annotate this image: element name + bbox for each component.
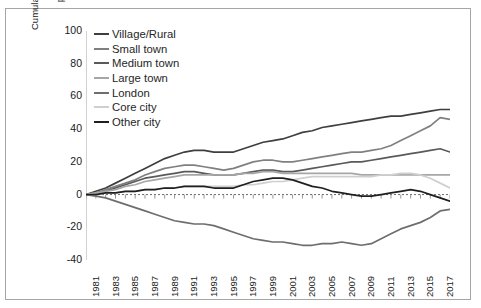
y-axis-tick-label: 100 <box>48 24 82 36</box>
x-axis-tick-label: 1989 <box>169 276 180 297</box>
x-axis-tick-label: 1999 <box>267 276 278 297</box>
x-axis-tick-label: 1997 <box>247 276 258 297</box>
y-axis-tick-label: 80 <box>48 57 82 69</box>
x-axis-tick-label: 1995 <box>228 276 239 297</box>
x-axis-tick-label: 2013 <box>405 276 416 297</box>
legend-label: Small town <box>112 43 167 55</box>
legend-item[interactable]: Small town <box>94 42 179 57</box>
legend-label: Large town <box>112 72 168 84</box>
legend-item[interactable]: Large town <box>94 71 179 86</box>
legend-label: Village/Rural <box>112 28 176 40</box>
chart-frame: Cumulative differential employment growt… <box>5 8 471 300</box>
x-axis-tick-labels: 1981198319851987198919911993199519971999… <box>86 263 450 308</box>
legend-swatch-icon <box>94 48 109 50</box>
y-axis-tick-label: -20 <box>48 220 82 232</box>
x-axis-tick-label: 2003 <box>306 276 317 297</box>
x-axis-tick-label: 1991 <box>188 276 199 297</box>
x-axis-tick-label: 2001 <box>287 276 298 297</box>
y-axis-title-line1: Cumulative differential employment growt… <box>29 0 42 39</box>
legend-item[interactable]: London <box>94 85 179 100</box>
x-axis-tick-label: 1983 <box>110 276 121 297</box>
x-axis-tick-label: 2009 <box>365 276 376 297</box>
y-axis-tick-label: -40 <box>48 253 82 265</box>
x-axis-tick-label: 1987 <box>149 276 160 297</box>
legend-swatch-icon <box>94 62 109 64</box>
y-axis-tick-labels: 100806040200-20-40 <box>44 9 82 308</box>
x-axis-tick-label: 2017 <box>444 276 455 297</box>
legend-label: Other city <box>112 116 160 128</box>
legend-swatch-icon <box>94 33 109 35</box>
y-axis-tick-label: 60 <box>48 89 82 101</box>
x-axis-tick-label: 2011 <box>385 277 396 297</box>
y-axis-tick-label: 0 <box>48 188 82 200</box>
legend: Village/RuralSmall townMedium townLarge … <box>94 27 179 129</box>
x-axis-tick-label: 1981 <box>90 276 101 297</box>
legend-label: London <box>112 87 150 99</box>
x-axis-tick-label: 1993 <box>208 276 219 297</box>
x-axis-tick-marks <box>86 195 450 199</box>
x-axis-tick-label: 1985 <box>129 276 140 297</box>
series-group <box>86 110 450 246</box>
legend-swatch-icon <box>94 92 109 94</box>
x-axis-tick-label: 2015 <box>424 276 435 297</box>
legend-item[interactable]: Village/Rural <box>94 27 179 42</box>
y-axis-tick-label: 40 <box>48 122 82 134</box>
legend-label: Core city <box>112 101 157 113</box>
legend-item[interactable]: Other city <box>94 115 179 130</box>
legend-label: Medium town <box>112 57 179 69</box>
legend-swatch-icon <box>94 77 109 79</box>
legend-item[interactable]: Medium town <box>94 56 179 71</box>
legend-item[interactable]: Core city <box>94 100 179 115</box>
x-axis-tick-label: 2005 <box>326 276 337 297</box>
legend-swatch-icon <box>94 121 109 123</box>
x-axis-tick-label: 2007 <box>346 276 357 297</box>
legend-swatch-icon <box>94 106 109 108</box>
series-line <box>86 195 450 246</box>
y-axis-tick-label: 20 <box>48 155 82 167</box>
